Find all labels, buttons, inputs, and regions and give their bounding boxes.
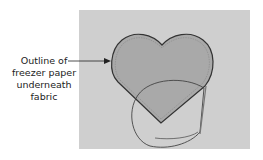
thread-tail bbox=[155, 132, 198, 139]
heart-fabric-shape bbox=[112, 34, 213, 123]
arrow-head-icon bbox=[104, 58, 111, 64]
needle-icon bbox=[200, 86, 206, 134]
heart-diagram bbox=[0, 0, 263, 160]
